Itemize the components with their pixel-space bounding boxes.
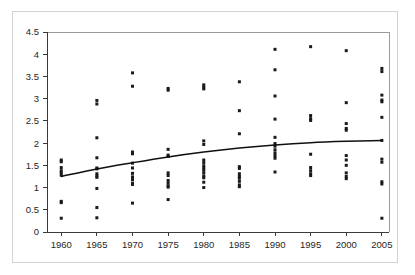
y-tick-label: 0: [34, 226, 39, 237]
data-point: [167, 174, 170, 177]
data-point: [274, 154, 277, 157]
data-point: [60, 160, 63, 163]
data-point: [202, 181, 205, 184]
data-point: [274, 48, 277, 51]
data-point: [238, 167, 241, 170]
y-tick-label: 3.5: [26, 71, 39, 82]
data-point: [309, 45, 312, 48]
y-tick-label: 2: [34, 138, 39, 149]
x-tick-label: 1980: [193, 239, 214, 250]
data-point: [345, 101, 348, 104]
data-point: [345, 159, 348, 162]
y-tick-label: 3: [34, 93, 39, 104]
data-point: [309, 169, 312, 172]
data-point: [202, 186, 205, 189]
data-point: [202, 169, 205, 172]
data-point: [202, 171, 205, 174]
trend-line: [61, 140, 382, 176]
data-point: [167, 89, 170, 92]
data-point: [345, 164, 348, 167]
y-tick-label: 2.5: [26, 115, 39, 126]
data-point: [309, 119, 312, 122]
data-point: [131, 167, 134, 170]
data-point: [167, 182, 170, 185]
data-point: [345, 129, 348, 132]
y-tick-label: 1: [34, 182, 39, 193]
data-point: [60, 166, 63, 169]
data-point: [95, 176, 98, 179]
data-point: [274, 171, 277, 174]
y-tick-label: 1.5: [26, 160, 39, 171]
data-point: [95, 187, 98, 190]
data-point: [380, 70, 383, 73]
data-point: [202, 176, 205, 179]
data-point: [131, 183, 134, 186]
data-point: [60, 217, 63, 220]
data-point: [131, 172, 134, 175]
data-point: [95, 216, 98, 219]
x-axis-ticks: 1960196519701975198019851990199520002005: [51, 232, 393, 250]
data-point: [380, 158, 383, 161]
data-point: [274, 157, 277, 160]
data-point: [131, 175, 134, 178]
data-points-layer: [60, 45, 384, 220]
data-point: [238, 109, 241, 112]
data-point: [238, 132, 241, 135]
data-point: [95, 103, 98, 106]
data-point: [202, 161, 205, 164]
data-point: [345, 154, 348, 157]
data-point: [380, 116, 383, 119]
data-point: [202, 139, 205, 142]
data-point: [274, 136, 277, 139]
data-point: [238, 177, 241, 180]
x-tick-label: 1960: [51, 239, 72, 250]
data-point: [167, 148, 170, 151]
data-point: [202, 87, 205, 90]
x-tick-label: 1995: [300, 239, 321, 250]
data-point: [309, 153, 312, 156]
y-tick-label: 4.5: [26, 26, 39, 37]
scatter-plot: 00.511.522.533.544.5 1960196519701975198…: [0, 0, 415, 275]
data-point: [345, 177, 348, 180]
data-point: [380, 94, 383, 97]
y-tick-label: 4: [34, 49, 39, 60]
plot-border-group: [47, 32, 389, 232]
data-point: [131, 85, 134, 88]
data-point: [380, 161, 383, 164]
data-point: [238, 80, 241, 83]
data-point: [238, 185, 241, 188]
y-axis-ticks: 00.511.522.533.544.5: [26, 26, 47, 237]
data-point: [274, 118, 277, 121]
data-point: [95, 206, 98, 209]
data-point: [167, 179, 170, 182]
data-point: [274, 148, 277, 151]
data-point: [131, 202, 134, 205]
x-tick-label: 1970: [122, 239, 143, 250]
x-tick-label: 1985: [229, 239, 250, 250]
data-point: [380, 183, 383, 186]
chart-figure: 00.511.522.533.544.5 1960196519701975198…: [0, 0, 415, 275]
data-point: [167, 171, 170, 174]
data-point: [309, 166, 312, 169]
data-point: [202, 143, 205, 146]
data-point: [60, 201, 63, 204]
data-point: [95, 156, 98, 159]
data-point: [167, 186, 170, 189]
data-point: [238, 180, 241, 183]
data-point: [309, 174, 312, 177]
data-point: [202, 159, 205, 162]
data-point: [345, 49, 348, 52]
data-point: [95, 99, 98, 102]
data-point: [274, 68, 277, 71]
data-point: [95, 136, 98, 139]
data-point: [309, 114, 312, 117]
data-point: [345, 171, 348, 174]
data-point: [131, 152, 134, 155]
y-tick-label: 0.5: [26, 204, 39, 215]
data-point: [274, 151, 277, 154]
data-point: [345, 122, 348, 125]
plot-area-border: [47, 32, 389, 232]
data-point: [274, 95, 277, 98]
x-tick-label: 1975: [158, 239, 179, 250]
data-point: [380, 217, 383, 220]
